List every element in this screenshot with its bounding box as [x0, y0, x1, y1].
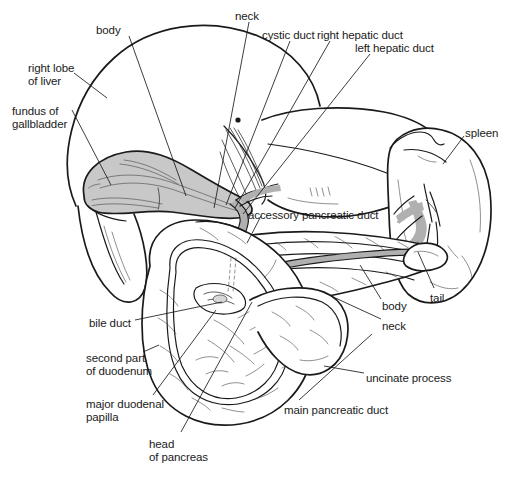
label-tail: tail [430, 292, 444, 305]
label-left-hepatic-duct: left hepatic duct [355, 42, 434, 55]
label-right-lobe-of-liver: right lobe of liver [28, 62, 74, 87]
label-head-of-pancreas: head of pancreas [149, 438, 208, 463]
label-spleen: spleen [465, 127, 498, 140]
label-major-duodenal-papilla: major duodenal papilla [86, 398, 164, 423]
label-right-hepatic-duct: right hepatic duct [317, 29, 403, 42]
anatomy-figure: .ol{fill:none;stroke:#1a1a1a;stroke-widt… [0, 0, 515, 477]
label-uncinate-process: uncinate process [366, 372, 451, 385]
label-cystic-duct: cystic duct [262, 29, 315, 42]
label-accessory-pancreatic-duct: accessory pancreatic duct [248, 209, 378, 222]
label-main-pancreatic-duct: main pancreatic duct [284, 404, 388, 417]
anatomy-drawing: .ol{fill:none;stroke:#1a1a1a;stroke-widt… [0, 0, 515, 477]
label-fundus-of-gallbladder: fundus of gallbladder [12, 105, 67, 130]
label-bile-duct: bile duct [89, 317, 131, 330]
label-body-pancreas: body [382, 300, 407, 313]
label-second-part-of-duodenum: second part of duodenum [86, 352, 152, 377]
label-body-liver: body [96, 24, 121, 37]
label-neck-pancreas: neck [382, 320, 406, 333]
label-neck-gallbladder: neck [235, 10, 259, 23]
